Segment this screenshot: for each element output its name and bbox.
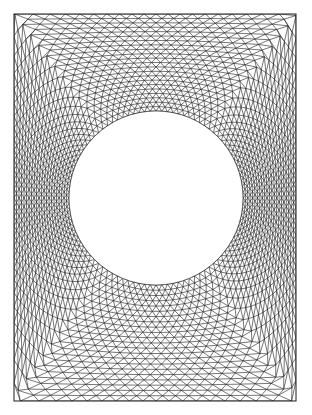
triangular-mesh [0,0,312,415]
circular-hole [69,111,243,285]
mesh-figure [0,0,312,415]
